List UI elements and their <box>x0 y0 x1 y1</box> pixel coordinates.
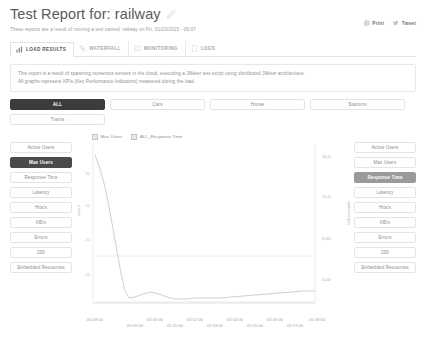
metric-label: Max Users <box>374 160 397 165</box>
category-label: Stations <box>348 102 367 107</box>
chart-legend: Max Users ALL_Response Time <box>75 132 351 141</box>
bar-chart-icon <box>16 46 23 53</box>
left-metric-embedded-resources[interactable]: Embedded Resources <box>10 262 72 273</box>
category-tab-cars[interactable]: Cars <box>110 99 205 110</box>
twitter-icon <box>393 20 399 26</box>
x-tick-label: 05:13:00 <box>207 323 223 328</box>
metric-label: 200 <box>37 250 45 255</box>
svg-text:16,000: 16,000 <box>322 154 331 159</box>
main-tabs: LOAD RESULTS WATERFALL MONITORING <box>10 41 416 57</box>
svg-text:8,000: 8,000 <box>322 236 331 241</box>
svg-text:40: 40 <box>86 237 91 242</box>
right-metric-200[interactable]: 200 <box>354 247 416 258</box>
left-metric-response-time[interactable]: Response Time <box>10 172 72 183</box>
svg-text:4,000: 4,000 <box>322 277 331 282</box>
category-label: Trains <box>50 117 64 122</box>
metric-label: Response Time <box>24 175 57 180</box>
left-metric-200[interactable]: 200 <box>10 247 72 258</box>
x-tick-label: 05:10:00 <box>147 317 163 322</box>
chart-container: Max Users ALL_Response Time users millis… <box>72 132 354 336</box>
metric-label: Embedded Resources <box>361 265 408 270</box>
tab-label: MONITORING <box>144 46 178 51</box>
chart-svg: 80 60 40 20 16,000 12,000 8,000 4,000 <box>75 141 331 316</box>
right-metric-embedded-resources[interactable]: Embedded Resources <box>354 262 416 273</box>
metric-label: Latency <box>377 190 394 195</box>
chart-x-axis: 05:08:00 05:09:00 05:10:00 05:11:00 05:1… <box>75 316 351 336</box>
right-metric-sidebar: Active Users Max Users Response Time Lat… <box>354 132 416 273</box>
x-tick-label: 05:14:00 <box>227 317 243 322</box>
legend-swatch <box>92 134 98 140</box>
metric-label: Hits/s <box>379 205 391 210</box>
metric-label: KB/s <box>36 220 46 225</box>
right-metric-latency[interactable]: Latency <box>354 187 416 198</box>
print-label: Print <box>372 21 384 26</box>
printer-icon <box>364 20 370 26</box>
pencil-icon[interactable] <box>166 9 177 20</box>
left-metric-max-users[interactable]: Max Users <box>10 157 72 168</box>
svg-text:80: 80 <box>86 171 91 176</box>
svg-text:20: 20 <box>86 272 91 277</box>
legend-swatch <box>131 134 137 140</box>
x-tick-label: 05:15:00 <box>247 323 263 328</box>
legend-item-response-time[interactable]: ALL_Response Time <box>131 134 182 140</box>
x-tick-label: 05:16:00 <box>267 317 283 322</box>
y-axis-label-right: milliseconds <box>346 201 351 225</box>
right-metric-hits[interactable]: Hits/s <box>354 202 416 213</box>
metric-label: Embedded Resources <box>17 265 64 270</box>
document-icon <box>191 45 198 52</box>
y-axis-label-left: users <box>76 205 81 216</box>
svg-text:60: 60 <box>86 203 91 208</box>
metric-label: Errors <box>378 235 391 240</box>
metric-label: 200 <box>381 250 389 255</box>
svg-text:12,000: 12,000 <box>322 194 331 199</box>
metric-label: Response Time <box>367 175 402 180</box>
left-metric-active-users[interactable]: Active Users <box>10 142 72 153</box>
tab-label: LOAD RESULTS <box>26 47 66 52</box>
left-metric-errors[interactable]: Errors <box>10 232 72 243</box>
legend-label: ALL_Response Time <box>140 134 182 139</box>
category-tab-stations[interactable]: Stations <box>310 99 405 110</box>
title-row: Test Report for: railway <box>10 6 416 22</box>
metric-label: Errors <box>34 235 47 240</box>
metric-label: Active Users <box>27 145 54 150</box>
category-tab-all[interactable]: ALL <box>10 99 105 110</box>
left-metric-latency[interactable]: Latency <box>10 187 72 198</box>
info-line-1: This report is a result of spawning nume… <box>18 70 408 78</box>
x-tick-label: 05:08:00 <box>87 317 103 322</box>
category-tab-home[interactable]: Home <box>210 99 305 110</box>
report-page: Test Report for: railway These reports a… <box>0 0 426 338</box>
category-tab-trains[interactable]: Trains <box>10 114 105 125</box>
right-metric-errors[interactable]: Errors <box>354 232 416 243</box>
chart-plot-area: users milliseconds 80 60 40 20 16,000 <box>75 141 351 316</box>
left-metric-sidebar: Active Users Max Users Response Time Lat… <box>10 132 72 273</box>
metric-label: Max Users <box>29 160 53 165</box>
print-button[interactable]: Print <box>364 20 384 26</box>
x-tick-label: 05:11:00 <box>167 323 183 328</box>
tab-monitoring[interactable]: MONITORING <box>129 41 186 56</box>
tweet-label: Tweet <box>402 21 416 26</box>
x-tick-label: 05:12:00 <box>187 317 203 322</box>
tab-logs[interactable]: LOGS <box>186 41 223 56</box>
metric-label: Latency <box>33 190 50 195</box>
left-metric-kbs[interactable]: KB/s <box>10 217 72 228</box>
page-title: Test Report for: railway <box>10 6 161 22</box>
x-tick-label: 05:18:00 <box>309 317 325 322</box>
legend-item-max-users[interactable]: Max Users <box>92 134 122 140</box>
legend-label: Max Users <box>101 134 123 139</box>
monitor-icon <box>134 45 141 52</box>
right-metric-response-time[interactable]: Response Time <box>354 172 416 183</box>
right-metric-max-users[interactable]: Max Users <box>354 157 416 168</box>
metric-label: Hits/s <box>35 205 47 210</box>
info-line-2: All graphs represent KPIs (Key Performan… <box>18 78 408 86</box>
tweet-button[interactable]: Tweet <box>393 20 416 26</box>
tab-load-results[interactable]: LOAD RESULTS <box>10 42 74 57</box>
report-subtitle: These reports are a result of running a … <box>10 26 416 33</box>
right-metric-kbs[interactable]: KB/s <box>354 217 416 228</box>
tab-label: WATERFALL <box>89 46 120 51</box>
category-label: ALL <box>53 102 63 107</box>
right-metric-active-users[interactable]: Active Users <box>354 142 416 153</box>
waterfall-icon <box>79 45 86 52</box>
tab-waterfall[interactable]: WATERFALL <box>74 41 128 56</box>
left-metric-hits[interactable]: Hits/s <box>10 202 72 213</box>
info-box: This report is a result of spawning nume… <box>10 64 416 92</box>
